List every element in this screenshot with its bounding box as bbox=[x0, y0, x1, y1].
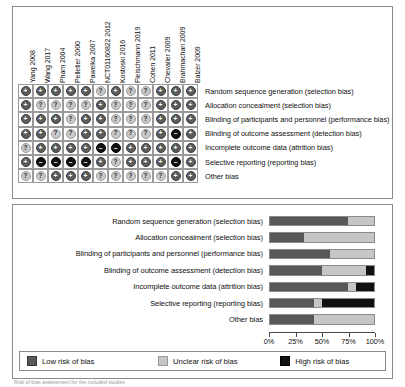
low-risk-icon: + bbox=[96, 157, 106, 167]
risk-judgement-cell: + bbox=[63, 141, 78, 155]
low-risk-icon: + bbox=[21, 100, 31, 110]
low-risk-icon: + bbox=[81, 129, 91, 139]
risk-judgement-cell: ? bbox=[123, 98, 138, 112]
summary-bar-row: Blinding of participants and personnel (… bbox=[13, 246, 392, 262]
low-risk-icon: + bbox=[21, 129, 31, 139]
risk-of-bias-summary-panel: Random sequence generation (selection bi… bbox=[12, 204, 393, 379]
risk-judgement-cell: + bbox=[183, 155, 198, 169]
unclear-risk-icon: ? bbox=[126, 100, 136, 110]
study-column-header: Pelletier 2000 bbox=[63, 9, 78, 83]
low-risk-icon: + bbox=[156, 86, 166, 96]
low-risk-icon: + bbox=[51, 143, 61, 153]
unclear-risk-icon: ? bbox=[111, 171, 121, 181]
low-risk-icon: + bbox=[81, 86, 91, 96]
risk-judgement-cell: ? bbox=[108, 127, 123, 141]
low-risk-icon: + bbox=[171, 143, 181, 153]
risk-judgement-cell: + bbox=[123, 141, 138, 155]
unclear-risk-icon: ? bbox=[21, 171, 31, 181]
low-risk-segment bbox=[270, 283, 348, 292]
low-risk-icon: + bbox=[21, 157, 31, 167]
low-risk-icon: + bbox=[96, 114, 106, 124]
risk-judgement-cell: + bbox=[33, 141, 48, 155]
risk-judgement-cell: + bbox=[183, 169, 198, 183]
percentage-axis: 0%25%50%75%100% bbox=[269, 332, 375, 348]
unclear-risk-icon: ? bbox=[66, 129, 76, 139]
risk-judgement-cell: + bbox=[153, 112, 168, 126]
summary-bar-track bbox=[269, 282, 375, 293]
risk-judgement-cell: + bbox=[168, 84, 183, 98]
risk-judgement-cell: ? bbox=[48, 98, 63, 112]
risk-judgement-cell: ? bbox=[138, 98, 153, 112]
risk-judgement-cell: – bbox=[33, 155, 48, 169]
summary-bar-label: Allocation concealment (selection bias) bbox=[13, 233, 269, 242]
legend-item-high-risk: High risk of bias bbox=[280, 356, 385, 366]
study-column-header: Wang 2017 bbox=[33, 9, 48, 83]
low-risk-icon: + bbox=[126, 157, 136, 167]
high-risk-icon: – bbox=[51, 157, 61, 167]
high-risk-segment bbox=[322, 299, 374, 308]
risk-judgement-cell: + bbox=[93, 98, 108, 112]
risk-judgement-cell: ? bbox=[48, 127, 63, 141]
unclear-risk-icon: ? bbox=[51, 129, 61, 139]
high-risk-segment bbox=[356, 283, 374, 292]
low-risk-icon: + bbox=[171, 114, 181, 124]
summary-bar-row: Allocation concealment (selection bias) bbox=[13, 229, 392, 245]
risk-judgement-cell: + bbox=[108, 84, 123, 98]
risk-judgement-cell: – bbox=[93, 141, 108, 155]
unclear-risk-segment bbox=[348, 217, 374, 226]
axis-tick-labels: 0%25%50%75%100% bbox=[269, 337, 375, 348]
risk-judgement-cell: + bbox=[78, 84, 93, 98]
bias-domain-label: Blinding of outcome assessment (detectio… bbox=[198, 129, 362, 138]
risk-judgement-cell: ? bbox=[63, 98, 78, 112]
unclear-risk-icon: ? bbox=[96, 171, 106, 181]
low-risk-icon: + bbox=[186, 171, 196, 181]
low-risk-icon: + bbox=[66, 143, 76, 153]
summary-bar-track bbox=[269, 314, 375, 325]
low-risk-icon: + bbox=[171, 171, 181, 181]
risk-judgement-cell: ? bbox=[138, 127, 153, 141]
low-risk-icon: + bbox=[186, 100, 196, 110]
study-column-header: Balzer 2009 bbox=[183, 9, 198, 83]
risk-judgement-cell: ? bbox=[78, 98, 93, 112]
summary-bar-track bbox=[269, 265, 375, 276]
summary-bar-label: Selective reporting (reporting bias) bbox=[13, 299, 269, 308]
unclear-risk-icon: ? bbox=[111, 100, 121, 110]
risk-judgement-cell: ? bbox=[93, 84, 108, 98]
risk-judgement-cell: + bbox=[63, 169, 78, 183]
chart-legend: Low risk of bias Unclear risk of bias Hi… bbox=[19, 351, 386, 371]
bias-domain-label: Random sequence generation (selection bi… bbox=[198, 87, 354, 96]
risk-judgement-cell: ? bbox=[153, 169, 168, 183]
low-risk-swatch-icon bbox=[27, 356, 37, 366]
study-name-label: Balzer 2009 bbox=[194, 46, 201, 83]
risk-judgement-cell: + bbox=[153, 141, 168, 155]
unclear-risk-icon: ? bbox=[21, 143, 31, 153]
risk-judgement-cell: + bbox=[138, 155, 153, 169]
unclear-risk-segment bbox=[314, 315, 374, 324]
legend-item-unclear-risk: Unclear risk of bias bbox=[158, 356, 280, 366]
risk-judgement-cell: – bbox=[48, 155, 63, 169]
low-risk-icon: + bbox=[51, 171, 61, 181]
risk-judgement-cell: + bbox=[168, 169, 183, 183]
low-risk-icon: + bbox=[186, 86, 196, 96]
low-risk-icon: + bbox=[141, 157, 151, 167]
low-risk-icon: + bbox=[111, 86, 121, 96]
low-risk-segment bbox=[270, 315, 314, 324]
risk-judgement-cell: – bbox=[108, 141, 123, 155]
risk-judgement-cell: + bbox=[183, 98, 198, 112]
unclear-risk-icon: ? bbox=[51, 100, 61, 110]
risk-judgement-cell: – bbox=[78, 155, 93, 169]
risk-judgement-cell: + bbox=[153, 127, 168, 141]
summary-bar-row: Blinding of outcome assessment (detectio… bbox=[13, 262, 392, 278]
study-column-header: Fleischmann 2019 bbox=[123, 9, 138, 83]
high-risk-icon: – bbox=[66, 157, 76, 167]
axis-tick-label: 0% bbox=[264, 337, 275, 346]
low-risk-icon: + bbox=[81, 143, 91, 153]
risk-judgement-cell: + bbox=[183, 112, 198, 126]
low-risk-icon: + bbox=[36, 143, 46, 153]
risk-judgement-cell: + bbox=[183, 141, 198, 155]
risk-judgement-cell: + bbox=[153, 155, 168, 169]
study-column-header: Pham 2004 bbox=[48, 9, 63, 83]
high-risk-icon: – bbox=[36, 157, 46, 167]
risk-judgement-cell: + bbox=[93, 155, 108, 169]
risk-judgement-cell: + bbox=[78, 112, 93, 126]
